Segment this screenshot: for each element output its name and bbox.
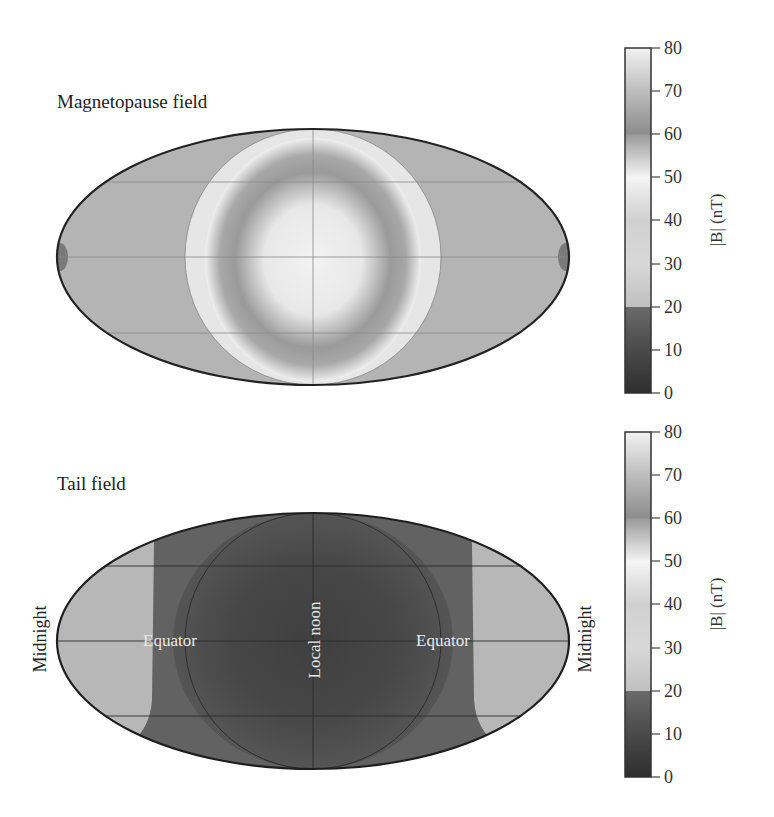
tick-label: 80 [664,38,682,58]
colorbar-label: |B| (nT) [707,578,726,631]
tail-title: Tail field [57,473,126,494]
equator-label-right: Equator [416,631,470,650]
tick-label: 60 [664,124,682,144]
tick-label: 20 [664,681,682,701]
tick-label: 40 [664,210,682,230]
tick-label: 80 [664,422,682,442]
colorbar-label: |B| (nT) [707,194,726,247]
midnight-label-left: Midnight [30,605,50,672]
magnetopause-title: Magnetopause field [57,91,208,112]
tail-map: Equator Equator Local noon [57,513,569,769]
midnight-label-right: Midnight [575,605,595,672]
tick-label: 70 [664,81,682,101]
tick-label: 10 [664,724,682,744]
tick-label: 50 [664,167,682,187]
tick-label: 20 [664,297,682,317]
tick-label: 50 [664,551,682,571]
tick-label: 60 [664,508,682,528]
tick-label: 0 [664,383,673,403]
local-noon-label: Local noon [305,601,324,678]
tick-label: 30 [664,638,682,658]
tick-label: 10 [664,340,682,360]
equator-label-left: Equator [143,631,197,650]
tick-label: 70 [664,465,682,485]
magnetopause-map [52,129,574,385]
tick-label: 40 [664,594,682,614]
figure: Magnetopause field [0,0,774,817]
tick-label: 30 [664,254,682,274]
tick-label: 0 [664,767,673,787]
